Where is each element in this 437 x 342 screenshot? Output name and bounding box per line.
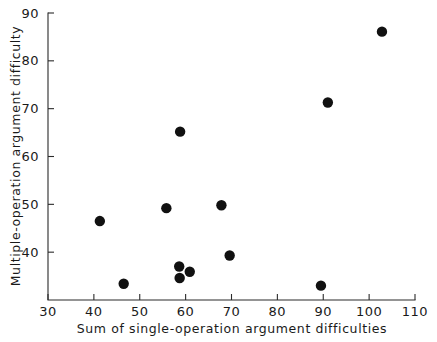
y-tick-label-70: 70 bbox=[21, 101, 39, 116]
y-tick-label-80: 80 bbox=[21, 53, 39, 68]
data-point-1 bbox=[118, 279, 128, 289]
data-point-8 bbox=[224, 250, 234, 260]
data-point-10 bbox=[323, 97, 333, 107]
x-tick-label-110: 110 bbox=[402, 304, 428, 319]
y-tick-label-50: 50 bbox=[21, 197, 39, 212]
data-points-group bbox=[95, 26, 388, 290]
y-axis-title: Multiple-operation argument difficulty bbox=[8, 26, 23, 287]
y-tick-label-60: 60 bbox=[21, 149, 39, 164]
data-point-7 bbox=[216, 200, 226, 210]
x-tick-label-50: 50 bbox=[131, 304, 149, 319]
data-point-9 bbox=[316, 280, 326, 290]
y-tick-label-90: 90 bbox=[21, 6, 39, 21]
x-tick-label-60: 60 bbox=[177, 304, 195, 319]
x-tick-label-40: 40 bbox=[85, 304, 103, 319]
data-point-4 bbox=[174, 261, 184, 271]
x-tick-label-80: 80 bbox=[269, 304, 287, 319]
y-tick-label-40: 40 bbox=[21, 245, 39, 260]
x-tick-label-70: 70 bbox=[223, 304, 241, 319]
data-point-2 bbox=[161, 203, 171, 213]
plot-canvas: 40506070809030405060708090100110 Sum of … bbox=[0, 0, 437, 342]
scatter-plot-figure: 40506070809030405060708090100110 Sum of … bbox=[0, 0, 437, 342]
data-point-5 bbox=[174, 273, 184, 283]
tick-labels-group: 40506070809030405060708090100110 bbox=[21, 6, 428, 320]
data-point-11 bbox=[377, 26, 387, 36]
data-point-3 bbox=[175, 126, 185, 136]
x-axis-title: Sum of single-operation argument difficu… bbox=[77, 321, 387, 336]
x-tick-label-30: 30 bbox=[39, 304, 57, 319]
x-tick-label-90: 90 bbox=[314, 304, 332, 319]
data-point-6 bbox=[185, 267, 195, 277]
x-tick-label-100: 100 bbox=[356, 304, 382, 319]
data-point-0 bbox=[95, 216, 105, 226]
